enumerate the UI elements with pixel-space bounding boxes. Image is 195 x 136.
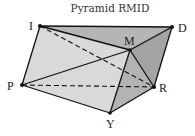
vertex-M-dot — [128, 48, 132, 52]
vertex-M-label: M — [124, 34, 135, 48]
vertex-D-dot — [170, 25, 174, 29]
pyramid-diagram: Pyramid RMID I D M P R Y — [0, 0, 195, 136]
vertex-D-label: D — [178, 21, 187, 35]
vertex-P-label: P — [7, 79, 14, 93]
vertex-Y-label: Y — [106, 117, 115, 131]
vertex-R-dot — [152, 85, 156, 89]
vertex-Y-dot — [108, 111, 112, 115]
vertex-I-dot — [38, 24, 42, 28]
diagram-title: Pyramid RMID — [71, 2, 150, 14]
vertex-I-label: I — [29, 19, 33, 33]
vertex-R-label: R — [159, 81, 167, 95]
vertex-P-dot — [20, 83, 24, 87]
